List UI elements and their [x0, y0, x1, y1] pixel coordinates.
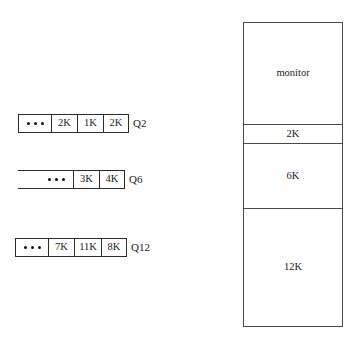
- queue-cell[interactable]: 2K: [103, 114, 129, 133]
- queue-cell[interactable]: 11K: [74, 238, 101, 257]
- queue-cell[interactable]: 1K: [77, 114, 103, 133]
- queue-cell[interactable]: 7K: [48, 238, 74, 257]
- ellipsis-dot: [31, 246, 34, 249]
- diagram-canvas: 2K 1K 2K Q2 3K 4K Q6 7K 11K 8K Q12 monit…: [0, 0, 364, 349]
- ellipsis-dot: [55, 178, 58, 181]
- queue-row-q12: 7K 11K 8K Q12: [15, 238, 150, 257]
- queue-cell[interactable]: 4K: [99, 170, 125, 189]
- queue-row-q2: 2K 1K 2K Q2: [18, 114, 146, 133]
- queue-row-q6: 3K 4K Q6: [18, 170, 142, 189]
- memory-block-12k[interactable]: 12K: [244, 209, 342, 326]
- queue-ellipsis-q2: [18, 114, 51, 133]
- queue-cell[interactable]: 8K: [101, 238, 127, 257]
- ellipsis-dot: [34, 122, 37, 125]
- ellipsis-dot: [24, 246, 27, 249]
- queue-ellipsis-q12: [15, 238, 48, 257]
- queue-label-q2: Q2: [129, 114, 146, 133]
- queue-label-q6: Q6: [125, 170, 142, 189]
- queue-tail-q6: [18, 170, 40, 189]
- queue-ellipsis-q6: [40, 170, 73, 189]
- queue-label-q12: Q12: [127, 238, 150, 257]
- memory-block-2k[interactable]: 2K: [244, 125, 342, 144]
- memory-block-6k[interactable]: 6K: [244, 144, 342, 209]
- ellipsis-dot: [48, 178, 51, 181]
- queue-cell[interactable]: 2K: [51, 114, 77, 133]
- ellipsis-dot: [38, 246, 41, 249]
- ellipsis-dot: [27, 122, 30, 125]
- queue-cell[interactable]: 3K: [73, 170, 99, 189]
- memory-block-monitor[interactable]: monitor: [244, 23, 342, 125]
- ellipsis-dot: [41, 122, 44, 125]
- ellipsis-dot: [62, 178, 65, 181]
- memory-map: monitor 2K 6K 12K: [243, 22, 343, 327]
